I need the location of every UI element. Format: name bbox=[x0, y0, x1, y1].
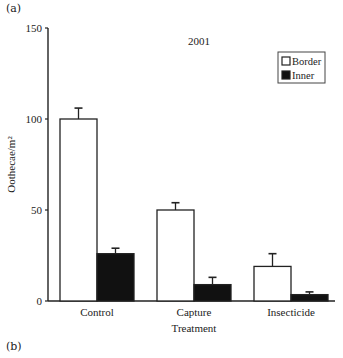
bar-inner-control bbox=[97, 254, 134, 301]
legend-swatch-border bbox=[282, 57, 290, 65]
y-axis-label: Oothecae/m² bbox=[5, 136, 17, 193]
bar-border-insecticide bbox=[254, 266, 291, 301]
legend-swatch-inner bbox=[282, 71, 290, 79]
bar-inner-insecticide bbox=[291, 295, 328, 301]
x-axis-label: Treatment bbox=[172, 322, 217, 334]
y-tick-label: 100 bbox=[26, 113, 43, 125]
legend-label-border: Border bbox=[292, 56, 322, 67]
bar-border-capture bbox=[157, 210, 194, 301]
y-tick-label: 0 bbox=[37, 295, 43, 307]
chart-title: 2001 bbox=[188, 35, 210, 47]
x-tick-label: Insecticide bbox=[267, 306, 315, 318]
bar-inner-capture bbox=[194, 285, 231, 301]
legend-label-inner: Inner bbox=[292, 70, 315, 81]
x-tick-label: Capture bbox=[177, 306, 212, 318]
bar-chart: 050100150Oothecae/m²2001ControlCaptureIn… bbox=[0, 0, 343, 358]
y-tick-label: 150 bbox=[26, 22, 43, 34]
y-tick-label: 50 bbox=[31, 204, 43, 216]
bar-border-control bbox=[60, 119, 97, 301]
x-tick-label: Control bbox=[80, 306, 114, 318]
